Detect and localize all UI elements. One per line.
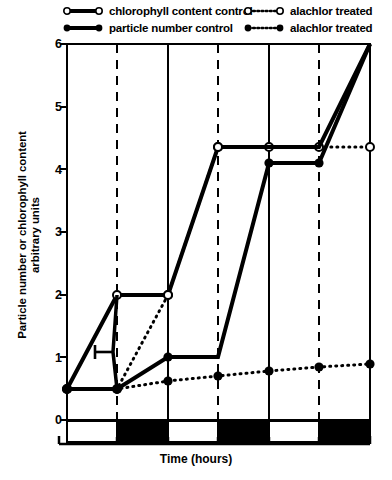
chart-figure: chlorophyll content control particle num… [0, 0, 392, 480]
series-chlorophyll-content-control [63, 44, 370, 393]
series-particle-number-control [62, 44, 370, 394]
y-axis-ticks [60, 44, 67, 420]
chlorophyll-control-decline-limb [95, 295, 117, 389]
chart-plot-area [0, 0, 392, 480]
photoperiod-gridlines [117, 44, 319, 420]
